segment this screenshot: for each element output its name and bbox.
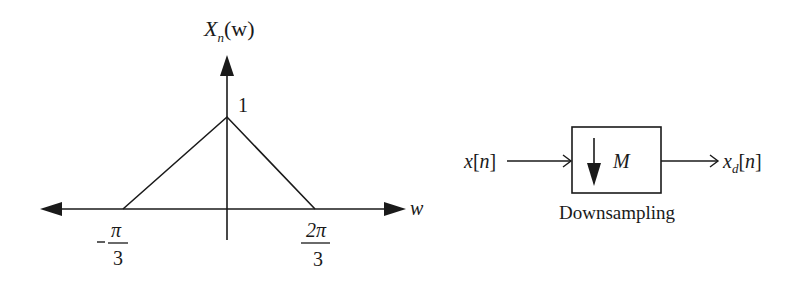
y-axis-label: Xn(w) <box>203 16 255 45</box>
left-tick-label: π 3 <box>97 219 128 269</box>
downsampling-block-diagram: x[n] M xd[n] Downsampling <box>463 127 762 223</box>
diagram-canvas: Xn(w) 1 w π 3 2π 3 x[n] M <box>0 0 803 286</box>
output-signal-label: xd[n] <box>722 150 762 176</box>
y-axis-label-arg: (w) <box>224 16 255 41</box>
input-signal-label: x[n] <box>463 150 496 172</box>
spectrum-plot: Xn(w) 1 w π 3 2π 3 <box>40 16 424 270</box>
right-tick-label: 2π 3 <box>301 219 330 270</box>
magnitude-axis-arrowhead-icon <box>220 55 234 76</box>
decimation-factor-label: M <box>612 150 631 172</box>
svg-text:3: 3 <box>113 247 123 269</box>
peak-value-label: 1 <box>238 94 248 116</box>
down-arrow-icon <box>587 163 601 186</box>
w-axis-left-arrowhead-icon <box>40 202 62 216</box>
triangular-spectrum <box>123 117 315 209</box>
svg-text:3: 3 <box>313 248 323 270</box>
block-caption: Downsampling <box>559 202 676 223</box>
x-axis-label: w <box>410 197 424 219</box>
svg-text:2π: 2π <box>306 219 327 241</box>
w-axis-right-arrowhead-icon <box>384 202 406 216</box>
svg-text:π: π <box>111 219 122 241</box>
